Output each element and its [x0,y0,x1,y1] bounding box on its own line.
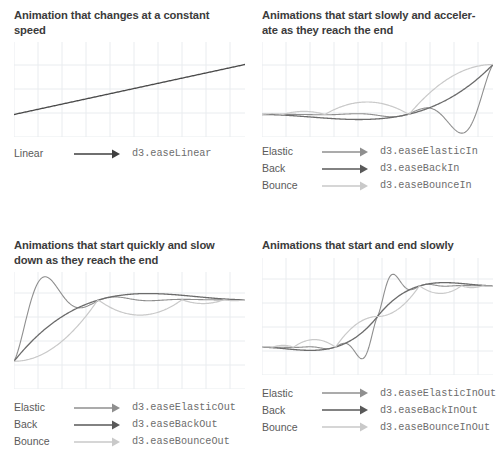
legend-label: Elastic [262,143,320,160]
arrow-icon [320,420,372,434]
curve-bounceInOut [262,285,493,347]
legend-code: d3.easeElasticOut [124,399,236,416]
legend-code: d3.easeBackOut [124,416,218,433]
legend-code: d3.easeBounceInOut [372,419,490,436]
arrow-icon [320,386,372,400]
chart-gridlines [262,42,493,137]
legend-code: d3.easeElasticIn [372,143,478,160]
curve-elasticIn [262,65,493,134]
legend-code: d3.easeBounceOut [124,433,230,450]
legend-code: d3.easeBounceIn [372,177,472,194]
legend-row: Backd3.easeBackIn [262,160,495,177]
arrow-icon [72,435,124,449]
panel-ease-out: Animations that start quickly and slow d… [0,230,248,474]
chart-ease-out [0,267,248,389]
legend-row: Bounced3.easeBounceIn [262,177,495,194]
panel-ease-in-out: Animations that start and end slowly Ela… [248,230,495,474]
easing-curve-plot [14,272,245,389]
legend-ease-out: Elasticd3.easeElasticOutBackd3.easeBackO… [0,389,248,450]
arrow-icon [320,145,372,159]
legend-constant-speed: Lineard3.easeLinear [0,137,248,162]
legend-label: Back [262,160,320,177]
panel-ease-in: Animations that start slowly and acceler… [248,0,495,230]
easing-curve-plot [14,42,245,137]
easing-curve-plot [262,258,493,375]
arrow-icon [320,403,372,417]
legend-row: Elasticd3.easeElasticOut [14,399,248,416]
legend-label: Bounce [262,419,320,436]
legend-label: Elastic [262,385,320,402]
legend-row: Elasticd3.easeElasticInOut [262,385,495,402]
easing-curve-plot [262,42,493,137]
legend-label: Back [14,416,72,433]
panel-title: Animations that start and end slowly [248,230,495,253]
curve-bounceOut [14,300,245,362]
legend-row: Bounced3.easeBounceOut [14,433,248,450]
chart-gridlines [14,272,245,389]
legend-code: d3.easeBackInOut [372,402,478,419]
chart-ease-in [248,37,495,137]
panel-title: Animations that start quickly and slow d… [0,230,248,267]
legend-row: Backd3.easeBackInOut [262,402,495,419]
chart-ease-in-out [248,253,495,375]
legend-label: Back [262,402,320,419]
legend-code: d3.easeElasticInOut [372,385,496,402]
legend-ease-in-out: Elasticd3.easeElasticInOutBackd3.easeBac… [248,375,495,436]
panel-title: Animation that changes at a constant spe… [0,0,248,37]
arrow-icon [72,147,124,161]
legend-row: Backd3.easeBackOut [14,416,248,433]
arrow-icon [72,401,124,415]
panel-constant-speed: Animation that changes at a constant spe… [0,0,248,230]
legend-row: Bounced3.easeBounceInOut [262,419,495,436]
curve-elasticOut [14,277,245,362]
chart-constant-speed [0,37,248,137]
legend-code: d3.easeLinear [124,145,211,162]
legend-row: Lineard3.easeLinear [14,145,248,162]
legend-label: Linear [14,145,72,162]
legend-code: d3.easeBackIn [372,160,459,177]
legend-label: Elastic [14,399,72,416]
arrow-icon [72,418,124,432]
panel-title: Animations that start slowly and acceler… [248,0,495,37]
arrow-icon [320,162,372,176]
arrow-icon [320,179,372,193]
legend-label: Bounce [14,433,72,450]
legend-ease-in: Elasticd3.easeElasticInBackd3.easeBackIn… [248,137,495,194]
legend-row: Elasticd3.easeElasticIn [262,143,495,160]
legend-label: Bounce [262,177,320,194]
